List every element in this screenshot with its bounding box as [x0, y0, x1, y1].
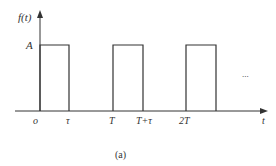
x-axis-arrow-icon	[260, 108, 268, 114]
y-axis-label: f(t)	[18, 11, 32, 24]
tick-label-T: T	[109, 115, 116, 126]
pulse-1	[40, 45, 69, 111]
origin-label: o	[33, 115, 38, 126]
figure-caption: (a)	[115, 149, 126, 161]
ellipsis: ...	[242, 69, 249, 79]
x-axis-label: t	[262, 115, 265, 126]
tick-label-tau: τ	[66, 115, 70, 126]
pulse-3	[186, 45, 216, 111]
pulse-2	[113, 45, 143, 111]
amplitude-label: A	[25, 39, 33, 51]
y-axis-arrow-icon	[37, 10, 43, 18]
pulse-train-figure: f(t) A o τ T T+τ 2T t ... (a)	[0, 0, 276, 166]
tick-label-2T: 2T	[179, 115, 191, 126]
tick-label-T-plus-tau: T+τ	[136, 115, 152, 126]
